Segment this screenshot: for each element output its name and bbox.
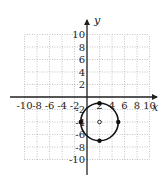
coordinate-plane: -10-8-6-4-2246810-10-8-6-4-2246810 x y [0,0,164,181]
y-tick-label: 10 [72,29,85,40]
y-axis-label: y [93,14,101,27]
x-tick-label: -8 [32,100,42,111]
x-axis-label: x [152,101,159,114]
y-tick-label: 2 [79,79,85,90]
y-tick-label: 6 [79,54,85,65]
point-marker [97,139,101,143]
point-marker [79,120,83,124]
y-axis-arrow-icon [84,19,90,25]
y-tick-label: -8 [75,142,85,153]
y-tick-label: 8 [79,42,85,53]
x-tick-label: 6 [121,100,127,111]
x-tick-label: -10 [16,100,32,111]
x-tick-label: -6 [45,100,55,111]
x-tick-label: 8 [134,100,140,111]
y-tick-label: -10 [69,154,85,165]
center-point-marker [98,120,102,124]
point-marker [116,120,120,124]
y-tick-label: 4 [79,67,85,78]
x-tick-label: -4 [57,100,67,111]
point-marker [97,101,101,105]
